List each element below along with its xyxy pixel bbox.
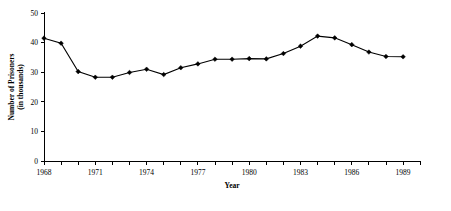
- plot-background: [0, 0, 451, 211]
- y-tick-label: 30: [31, 68, 39, 77]
- x-axis-title: Year: [225, 181, 241, 190]
- x-tick-label: 1983: [293, 168, 308, 177]
- y-tick-label: 50: [31, 9, 39, 18]
- x-tick-label: 1974: [139, 168, 154, 177]
- line-chart: 01020304050 1968197119741977198019831986…: [0, 0, 451, 211]
- x-tick-label: 1968: [37, 168, 52, 177]
- y-tick-label: 20: [31, 98, 39, 107]
- x-tick-label: 1980: [242, 168, 257, 177]
- x-tick-label: 1971: [88, 168, 103, 177]
- y-tick-label: 40: [31, 38, 39, 47]
- x-tick-label: 1989: [396, 168, 411, 177]
- y-axis-title-line2: (in thousands): [16, 64, 25, 110]
- chart-page: 01020304050 1968197119741977198019831986…: [0, 0, 451, 211]
- y-tick-label: 0: [34, 157, 38, 166]
- x-tick-label: 1977: [190, 168, 205, 177]
- y-tick-label: 10: [31, 127, 39, 136]
- x-tick-label: 1986: [344, 168, 359, 177]
